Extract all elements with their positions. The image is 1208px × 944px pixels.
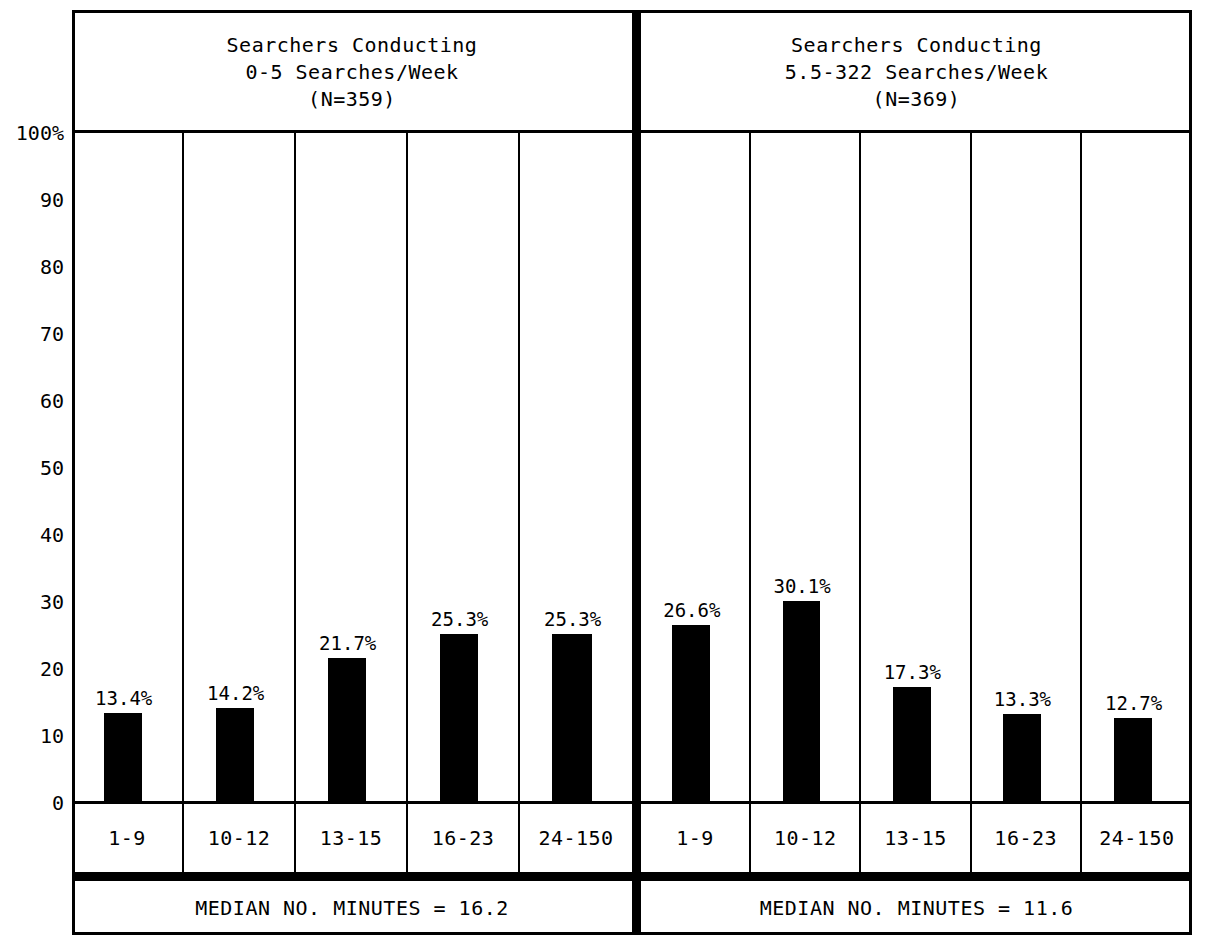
y-axis-tick-label: 40 bbox=[40, 525, 64, 545]
category-label: 10-12 bbox=[751, 804, 861, 872]
bar-column: 17.3% bbox=[861, 133, 971, 803]
category-labels-right: 1-910-1213-1516-2324-150 bbox=[632, 804, 1192, 872]
y-axis-tick-label: 30 bbox=[40, 592, 64, 612]
bar-column: 25.3% bbox=[520, 133, 632, 803]
category-label: 16-23 bbox=[972, 804, 1082, 872]
panel-left: 13.4%14.2%21.7%25.3%25.3% bbox=[72, 133, 632, 803]
panel-header-right-line-1: Searchers Conducting bbox=[791, 32, 1042, 59]
y-axis-tick-label: 80 bbox=[40, 257, 64, 277]
panel-headers: Searchers Conducting 0-5 Searches/Week (… bbox=[72, 10, 1192, 133]
median-note-left: MEDIAN NO. MINUTES = 16.2 bbox=[72, 881, 632, 935]
bar bbox=[783, 601, 821, 803]
y-axis-tick-label: 50 bbox=[40, 458, 64, 478]
bar-value-label: 13.4% bbox=[74, 687, 173, 709]
bar-column: 21.7% bbox=[296, 133, 408, 803]
bar-value-label: 17.3% bbox=[864, 661, 961, 683]
panel-header-right-line-2: 5.5-322 Searches/Week bbox=[785, 59, 1048, 86]
bar-value-label: 26.6% bbox=[643, 599, 740, 621]
bar-column: 25.3% bbox=[408, 133, 520, 803]
bar bbox=[328, 658, 367, 803]
bar bbox=[672, 625, 710, 803]
median-note-right: MEDIAN NO. MINUTES = 11.6 bbox=[632, 881, 1192, 935]
category-label: 13-15 bbox=[296, 804, 408, 872]
y-axis-tick-label: 0 bbox=[52, 793, 64, 813]
bar-value-label: 30.1% bbox=[753, 575, 850, 597]
y-axis-tick-label: 20 bbox=[40, 659, 64, 679]
y-axis-tick-label: 90 bbox=[40, 190, 64, 210]
y-axis-tick-label: 100% bbox=[16, 123, 64, 143]
category-label: 1-9 bbox=[72, 804, 184, 872]
panel-header-right: Searchers Conducting 5.5-322 Searches/We… bbox=[632, 10, 1192, 130]
panel-header-left-line-1: Searchers Conducting bbox=[227, 32, 478, 59]
bar bbox=[104, 713, 143, 803]
bar-value-label: 25.3% bbox=[410, 608, 509, 630]
y-axis-tick-label: 10 bbox=[40, 726, 64, 746]
plot-area: 13.4%14.2%21.7%25.3%25.3% 26.6%30.1%17.3… bbox=[72, 133, 1192, 803]
category-label: 13-15 bbox=[861, 804, 971, 872]
bar bbox=[893, 687, 931, 803]
bar bbox=[440, 634, 479, 804]
bar-value-label: 12.7% bbox=[1084, 692, 1183, 714]
panel-header-right-line-3: (N=369) bbox=[873, 86, 961, 113]
bar bbox=[216, 708, 255, 803]
bar-chart-figure: 100%9080706050403020100 Searchers Conduc… bbox=[0, 0, 1208, 944]
bar-column: 12.7% bbox=[1082, 133, 1192, 803]
bar-column: 14.2% bbox=[184, 133, 296, 803]
bar-column: 26.6% bbox=[641, 133, 751, 803]
category-label: 10-12 bbox=[184, 804, 296, 872]
bar bbox=[1003, 714, 1041, 803]
bar-column: 13.4% bbox=[72, 133, 184, 803]
category-label-row: 1-910-1213-1516-2324-150 1-910-1213-1516… bbox=[72, 804, 1192, 872]
category-label: 24-150 bbox=[1082, 804, 1192, 872]
bar bbox=[552, 634, 591, 804]
panel-header-left: Searchers Conducting 0-5 Searches/Week (… bbox=[72, 10, 632, 130]
footer-row: MEDIAN NO. MINUTES = 16.2 MEDIAN NO. MIN… bbox=[72, 881, 1192, 935]
category-labels-left: 1-910-1213-1516-2324-150 bbox=[72, 804, 632, 872]
footer-divider-rule bbox=[72, 872, 1192, 881]
bar-value-label: 21.7% bbox=[298, 632, 397, 654]
bar bbox=[1114, 718, 1153, 803]
category-label: 16-23 bbox=[408, 804, 520, 872]
y-axis: 100%9080706050403020100 bbox=[0, 133, 70, 803]
y-axis-tick-label: 70 bbox=[40, 324, 64, 344]
y-axis-tick-label: 60 bbox=[40, 391, 64, 411]
category-label: 24-150 bbox=[520, 804, 632, 872]
category-label: 1-9 bbox=[641, 804, 751, 872]
bar-value-label: 14.2% bbox=[186, 682, 285, 704]
bar-column: 13.3% bbox=[972, 133, 1082, 803]
bar-value-label: 13.3% bbox=[974, 688, 1071, 710]
panel-header-left-line-2: 0-5 Searches/Week bbox=[245, 59, 458, 86]
bar-column: 30.1% bbox=[751, 133, 861, 803]
panel-right: 26.6%30.1%17.3%13.3%12.7% bbox=[632, 133, 1192, 803]
panel-header-left-line-3: (N=359) bbox=[308, 86, 396, 113]
bar-value-label: 25.3% bbox=[522, 608, 623, 630]
